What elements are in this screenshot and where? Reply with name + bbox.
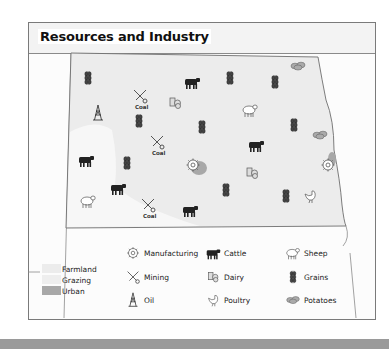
grains-icon xyxy=(199,120,205,134)
bottom-bar xyxy=(0,339,389,349)
grains-icon xyxy=(85,71,91,85)
farmland-swatch xyxy=(42,264,61,273)
farmland-label: Farmland xyxy=(62,265,97,274)
river-line xyxy=(343,226,347,246)
legend-grains-label: Grains xyxy=(304,273,328,282)
legend-mining-label: Mining xyxy=(144,273,169,282)
grains-icon xyxy=(291,118,297,132)
manufacturing-icon xyxy=(322,159,335,172)
legend-potatoes-icon xyxy=(287,297,300,304)
urban-swatch xyxy=(42,286,61,295)
legend-dairy-icon xyxy=(209,273,218,282)
svg-text:Coal: Coal xyxy=(135,104,149,110)
grains-icon xyxy=(124,156,130,170)
legend-manufacturing-label: Manufacturing xyxy=(144,249,199,258)
legend-oil-icon xyxy=(129,293,138,307)
grains-icon xyxy=(223,183,229,197)
state-map: Coal xyxy=(0,0,389,349)
legend-poultry-label: Poultry xyxy=(224,296,251,305)
urban-label: Urban xyxy=(62,287,85,296)
legend-mining-icon xyxy=(128,272,140,284)
legend-oil-label: Oil xyxy=(144,296,154,305)
grains-icon xyxy=(136,114,142,128)
grains-icon xyxy=(227,71,233,85)
svg-text:Coal: Coal xyxy=(143,213,157,219)
manufacturing-icon xyxy=(187,159,200,172)
legend-manufacturing-icon xyxy=(127,247,139,259)
boundary-line xyxy=(350,253,356,318)
legend-cattle-icon xyxy=(207,249,221,259)
legend-dairy-label: Dairy xyxy=(224,273,245,282)
legend-cattle-label: Cattle xyxy=(224,249,247,258)
legend-grains-icon xyxy=(290,271,296,284)
legend-sheep-icon xyxy=(287,249,300,260)
legend: FarmlandGrazingUrban Manufacturing Cattl… xyxy=(42,247,337,306)
legend-potatoes-label: Potatoes xyxy=(304,296,337,305)
grazing-swatch xyxy=(42,275,61,284)
svg-text:Coal: Coal xyxy=(152,150,166,156)
legend-sheep-label: Sheep xyxy=(304,249,328,258)
grazing-label: Grazing xyxy=(62,276,91,285)
legend-poultry-icon xyxy=(209,295,218,306)
grains-icon xyxy=(283,189,289,203)
grains-icon xyxy=(272,75,278,89)
